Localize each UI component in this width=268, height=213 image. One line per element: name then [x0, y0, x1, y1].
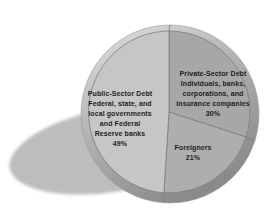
- label-public-line: Public-Sector Debt: [72, 89, 168, 99]
- label-public-line: Reserve banks: [72, 129, 168, 139]
- label-public-sector-debt: Public-Sector Debt Federal, state, and l…: [72, 89, 168, 149]
- label-foreigners: Foreigners 21%: [156, 143, 230, 163]
- figure-canvas: OWNERSHIP OF THE NATIONAL DEBT Pub: [0, 0, 268, 213]
- label-private-line: Individuals, banks,: [161, 79, 265, 89]
- label-public-line: and Federal: [72, 119, 168, 129]
- label-private-line: insurance companies: [161, 99, 265, 109]
- label-public-line: local governments: [72, 109, 168, 119]
- label-private-line: Private-Sector Debt: [161, 69, 265, 79]
- label-foreigners-percent: 21%: [156, 153, 230, 163]
- label-private-sector-debt: Private-Sector Debt Individuals, banks, …: [161, 69, 265, 119]
- label-foreigners-line: Foreigners: [156, 143, 230, 153]
- label-public-line: Federal, state, and: [72, 99, 168, 109]
- label-private-percent: 30%: [161, 109, 265, 119]
- label-private-line: corporations, and: [161, 89, 265, 99]
- rim-divider-bottom: [164, 193, 165, 203]
- label-public-percent: 49%: [72, 139, 168, 149]
